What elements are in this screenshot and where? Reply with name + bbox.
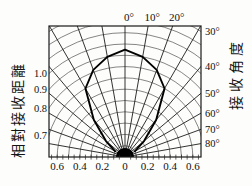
bottom-radial-label: 0.4 <box>73 160 87 172</box>
bottom-radial-label: 0.2 <box>141 160 155 172</box>
right-angle-label: 80° <box>205 138 220 149</box>
right-angle-label: 60° <box>205 108 220 119</box>
bottom-radial-label: 0.6 <box>186 160 200 172</box>
left-radial-label: 1.0 <box>34 68 47 79</box>
left-radial-label: 0.9 <box>34 84 47 95</box>
right-angle-label: 30° <box>205 26 220 37</box>
right-angle-label: 70° <box>205 124 220 135</box>
right-angle-label: 50° <box>205 88 220 99</box>
top-angle-label: 0° <box>124 11 134 23</box>
top-angle-label: 20° <box>169 11 184 23</box>
left-axis-title: 相對接收距離 <box>9 50 29 170</box>
right-angle-label: 40° <box>205 61 220 72</box>
polar-plot-canvas: 0°10°20°30°40°50°60°70°80°1.00.90.80.70.… <box>0 0 252 186</box>
left-radial-label: 0.8 <box>34 103 47 114</box>
top-angle-label: 10° <box>144 11 159 23</box>
bottom-radial-label: 0.6 <box>50 160 64 172</box>
right-axis-title: 接收角度 <box>227 24 247 124</box>
bottom-radial-label: 0 <box>122 160 128 172</box>
left-radial-label: 0.7 <box>34 130 47 141</box>
bottom-radial-label: 0.2 <box>96 160 110 172</box>
polar-reception-chart: 0°10°20°30°40°50°60°70°80°1.00.90.80.70.… <box>0 0 252 186</box>
bottom-radial-label: 0.4 <box>163 160 177 172</box>
